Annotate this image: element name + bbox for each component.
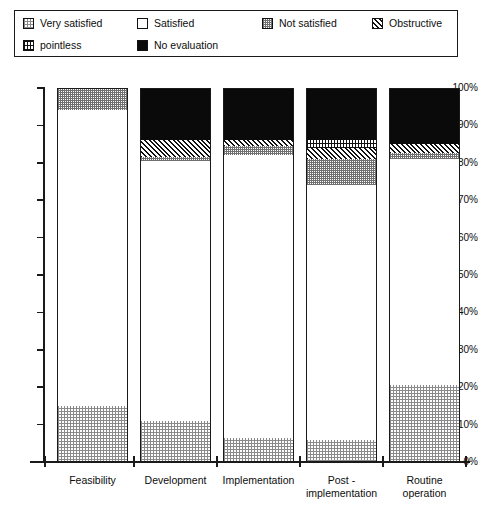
bar-segment-very-satisfied (223, 438, 294, 462)
bar-segment-no-evaluation (223, 88, 294, 140)
y-axis-tick (37, 461, 44, 463)
bar-development (140, 88, 211, 462)
x-axis-label: Routineoperation (377, 474, 472, 500)
bar-segment-obstructive (223, 140, 294, 146)
y-axis-tick (37, 349, 44, 351)
bar-segment-not-satisfied (306, 159, 377, 185)
plot-area (44, 88, 468, 462)
bar-segment-very-satisfied (389, 385, 460, 462)
bar-segment-satisfied (57, 110, 128, 405)
y-axis-tick (37, 87, 44, 89)
bar-segment-satisfied (306, 185, 377, 439)
x-axis-label: Post -implementation (294, 474, 389, 500)
x-axis-label: Development (128, 474, 223, 487)
x-axis-label-line: Routine (377, 474, 472, 487)
y-axis-tick (37, 312, 44, 314)
bar-segment-not-satisfied (389, 153, 460, 159)
bar-segment-obstructive (140, 140, 211, 157)
x-axis-label-line: Development (128, 474, 223, 487)
bar-segment-pointless (306, 140, 377, 147)
bar-segment-satisfied (223, 155, 294, 437)
bar-segment-obstructive (389, 144, 460, 153)
bar-segment-very-satisfied (140, 421, 211, 462)
x-axis-label: Implementation (211, 474, 306, 487)
bar-segment-very-satisfied (306, 440, 377, 462)
bar-feasibility (57, 88, 128, 462)
y-axis-tick (37, 424, 44, 426)
x-axis-label-line: Implementation (211, 474, 306, 487)
x-axis-label-line: implementation (294, 487, 389, 500)
bar-segment-satisfied (140, 161, 211, 421)
y-axis-tick (37, 162, 44, 164)
x-axis-label: Feasibility (45, 474, 140, 487)
bar-segment-not-satisfied (140, 157, 211, 161)
bar-segment-very-satisfied (57, 406, 128, 462)
bar-post-implementation (306, 88, 377, 462)
y-axis-tick (37, 125, 44, 127)
bar-segment-no-evaluation (140, 88, 211, 140)
x-axis-label-line: Post - (294, 474, 389, 487)
y-axis-tick (37, 274, 44, 276)
y-axis-tick (37, 237, 44, 239)
x-axis-label-line: Feasibility (45, 474, 140, 487)
bar-segment-not-satisfied (223, 146, 294, 155)
bar-segment-no-evaluation (306, 88, 377, 140)
bar-routine-operation (389, 88, 460, 462)
y-axis-tick (37, 199, 44, 201)
bar-segment-not-satisfied (57, 88, 128, 110)
bar-segment-no-evaluation (389, 88, 460, 144)
bar-segment-satisfied (389, 159, 460, 385)
x-axis-label-line: operation (377, 487, 472, 500)
bar-segment-obstructive (306, 148, 377, 159)
y-axis-tick (37, 386, 44, 388)
bar-implementation (223, 88, 294, 462)
stacked-bar-chart: 0%10%20%30%40%50%60%70%80%90%100% Feasib… (0, 0, 478, 524)
